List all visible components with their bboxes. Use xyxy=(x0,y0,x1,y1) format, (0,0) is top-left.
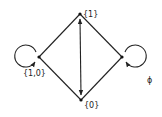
node-right xyxy=(120,55,123,58)
edge-top-bottom-bidirectional xyxy=(80,19,81,95)
label-bottom: {0} xyxy=(84,101,99,110)
edge-right-bottom xyxy=(81,57,122,100)
self-loop-right xyxy=(125,45,146,67)
label-right: ϕ xyxy=(147,76,152,85)
node-top xyxy=(78,12,81,15)
label-left: {1,0} xyxy=(23,69,46,78)
self-loop-left xyxy=(15,45,36,67)
edge-left-bottom xyxy=(39,57,81,100)
label-top: {1} xyxy=(83,10,98,19)
edge-top-left xyxy=(39,14,80,57)
node-left xyxy=(37,55,40,58)
edge-top-right xyxy=(80,14,122,57)
node-bottom xyxy=(79,98,82,101)
state-diagram: {1} {1,0} ϕ {0} xyxy=(0,0,162,117)
